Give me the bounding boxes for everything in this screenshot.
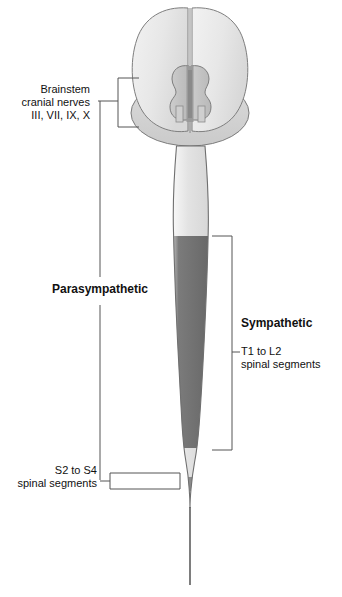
- nuclei-midline-stripe-dark: [188, 70, 192, 118]
- nuclei-column-left: [176, 106, 183, 122]
- label-sympathetic: Sympathetic: [241, 317, 312, 330]
- figure-canvas: Brainstem cranial nerves III, VII, IX, X…: [0, 0, 342, 597]
- sacral-outflow-bracket: [100, 473, 180, 489]
- label-sacral-spinal-segments: S2 to S4 spinal segments: [18, 464, 98, 490]
- spinal-cord-group: [160, 130, 222, 585]
- cord-thoracolumbar-segment: [160, 236, 222, 448]
- label-sympathetic-spinal-segments: T1 to L2 spinal segments: [241, 345, 321, 371]
- sympathetic-span-bracket: [212, 236, 232, 450]
- label-parasympathetic: Parasympathetic: [33, 283, 167, 296]
- nuclei-column-right: [198, 106, 205, 122]
- label-brainstem-cranial-nerves: Brainstem cranial nerves III, VII, IX, X: [22, 83, 90, 122]
- brain-group: [131, 8, 249, 146]
